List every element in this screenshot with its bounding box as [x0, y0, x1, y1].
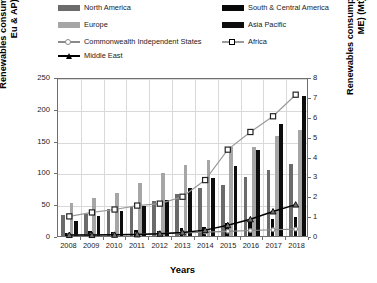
x-axis-tick-label: 2017 [262, 242, 285, 249]
y-axis-right-tick-label: 6 [313, 114, 333, 122]
x-axis-tick-mark [240, 237, 241, 240]
x-axis-tick-mark [217, 237, 218, 240]
x-axis-tick-label: 2008 [57, 242, 80, 249]
legend-item-label: Commonwealth Independent States [84, 38, 202, 45]
y-axis-right-tick-label: 5 [313, 134, 333, 142]
legend-item-label: South & Central America [248, 4, 329, 11]
data-point-square-icon [157, 201, 162, 206]
legend-item-asia-pacific[interactable]: Asia Pacific [222, 21, 286, 28]
y-axis-right-tick-label: 1 [313, 213, 333, 221]
data-point-square-icon [180, 194, 185, 199]
x-axis-tick-mark [308, 237, 309, 240]
legend-item-africa[interactable]: Africa [222, 38, 267, 45]
y-axis-right-tick-label: 7 [313, 94, 333, 102]
legend-item-north-america[interactable]: North America [58, 4, 131, 11]
legend-item-label: North America [84, 4, 131, 11]
y-axis-left-tick-label: 0 [24, 233, 50, 241]
y-axis-left-tick-label: 150 [24, 138, 50, 146]
y-axis-left-tick-mark [54, 237, 57, 238]
legend-item-middle-east[interactable]: Middle East [58, 52, 123, 59]
legend-item-label: Asia Pacific [248, 21, 286, 28]
y-axis-right-title: Renewables consumption (CIS, Af & ME) (M… [345, 0, 366, 96]
legend-swatch-bar-icon [222, 5, 244, 11]
y-axis-right-tick-label: 0 [313, 233, 333, 241]
x-axis-tick-label: 2009 [80, 242, 103, 249]
data-point-circle-icon [226, 229, 230, 233]
legend-swatch-line-icon [222, 38, 244, 45]
y-axis-right-tick-label: 4 [313, 154, 333, 162]
legend-swatch-bar-icon [58, 22, 80, 28]
legend-item-commonwealth-independent-states[interactable]: Commonwealth Independent States [58, 38, 202, 45]
legend-item-south-central-america[interactable]: South & Central America [222, 4, 329, 11]
data-point-square-icon [67, 214, 72, 219]
x-axis-tick-label: 2014 [194, 242, 217, 249]
legend-swatch-bar-icon [58, 5, 80, 11]
data-point-square-icon [293, 92, 298, 97]
legend-item-label: Middle East [84, 52, 123, 59]
x-axis-tick-mark [171, 237, 172, 240]
renewables-consumption-chart: North AmericaSouth & Central AmericaEuro… [0, 0, 377, 283]
chart-legend: North AmericaSouth & Central AmericaEuro… [0, 0, 377, 62]
x-axis-tick-label: 2010 [103, 242, 126, 249]
legend-item-label: Africa [248, 38, 267, 45]
x-axis-tick-mark [103, 237, 104, 240]
x-axis-tick-label: 2016 [240, 242, 263, 249]
x-axis-tick-mark [148, 237, 149, 240]
y-axis-left-tick-label: 50 [24, 201, 50, 209]
data-point-square-icon [225, 147, 230, 152]
y-axis-left-tick-label: 100 [24, 169, 50, 177]
y-axis-right-tick-label: 2 [313, 193, 333, 201]
data-point-circle-icon [249, 229, 253, 233]
x-axis-tick-label: 2013 [171, 242, 194, 249]
data-point-square-icon [112, 207, 117, 212]
x-axis-tick-mark [262, 237, 263, 240]
x-axis-tick-label: 2011 [125, 242, 148, 249]
legend-swatch-bar-icon [222, 22, 244, 28]
data-point-square-icon [89, 210, 94, 215]
x-axis-tick-label: 2015 [217, 242, 240, 249]
y-axis-left-tick-label: 200 [24, 106, 50, 114]
x-axis-tick-label: 2012 [148, 242, 171, 249]
y-axis-left-tick-label: 250 [24, 74, 50, 82]
data-point-triangle-icon [293, 202, 299, 207]
plot-area [57, 78, 308, 237]
x-axis-tick-label: 2018 [285, 242, 308, 249]
x-axis-tick-mark [80, 237, 81, 240]
x-axis-title: Years [57, 264, 308, 275]
data-point-circle-icon [271, 228, 275, 232]
legend-item-europe[interactable]: Europe [58, 21, 108, 28]
y-axis-left-title: Renewables consumption (NA, SCA, Eu & AP… [0, 0, 19, 94]
data-point-square-icon [248, 129, 253, 134]
data-point-square-icon [203, 178, 208, 183]
data-point-circle-icon [294, 227, 298, 231]
data-point-square-icon [135, 203, 140, 208]
data-point-square-icon [270, 114, 275, 119]
legend-swatch-line-icon [58, 52, 80, 59]
y-axis-right-tick-label: 3 [313, 173, 333, 181]
line-series-overlay [58, 79, 307, 236]
y-axis-right-tick-label: 8 [313, 74, 333, 82]
x-axis-tick-mark [125, 237, 126, 240]
x-axis-tick-mark [194, 237, 195, 240]
legend-item-label: Europe [84, 21, 108, 28]
legend-swatch-line-icon [58, 38, 80, 45]
x-axis-tick-mark [285, 237, 286, 240]
